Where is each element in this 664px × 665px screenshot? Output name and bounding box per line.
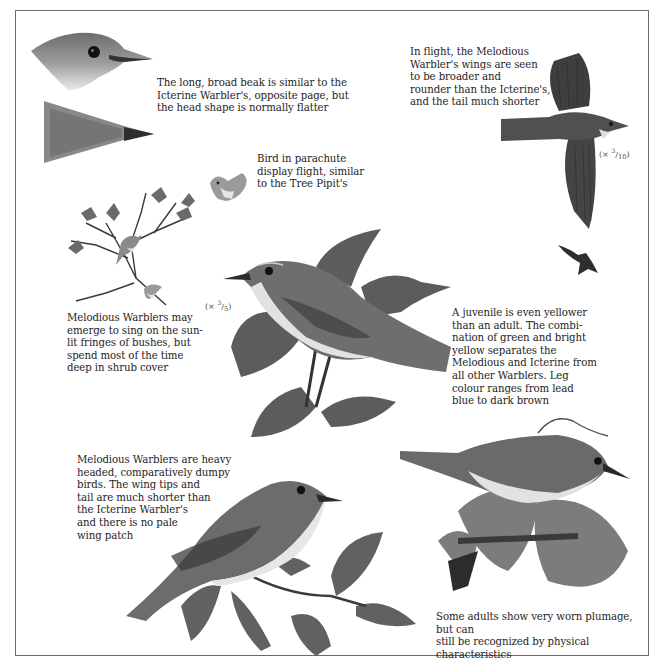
small-flying-bird-silhouette <box>556 241 601 279</box>
caption-beak: The long, broad beak is similar to the I… <box>157 77 349 115</box>
head-profile-illustration <box>29 29 154 94</box>
caption-singing: Melodious Warblers may emerge to sing on… <box>67 312 203 375</box>
caption-juvenile: A juvenile is even yellower than an adul… <box>452 307 597 408</box>
field-guide-page: The long, broad beak is similar to the I… <box>15 10 649 656</box>
flying-bird-illustration <box>499 51 634 231</box>
worn-plumage-bird-illustration <box>398 411 643 616</box>
caption-parachute: Bird in parachute display flight, simila… <box>257 153 364 191</box>
singing-birds-branch-illustration <box>66 183 211 308</box>
parachute-display-bird-illustration <box>208 169 250 205</box>
head-top-view-illustration <box>42 99 157 164</box>
caption-worn-plumage: Some adults show very worn plumage, but … <box>436 611 648 661</box>
scale-label-flight: (× 3/10) <box>599 147 630 161</box>
dumpy-perched-bird-illustration <box>121 466 431 661</box>
